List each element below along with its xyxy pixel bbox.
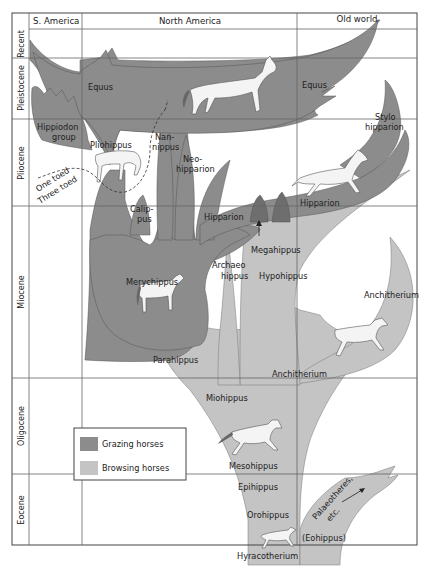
label-stylohipparion-line1: Stylo — [375, 112, 396, 122]
label-megahippus: Megahippus — [251, 245, 301, 255]
label-hippidion-line1: Hippiodon — [37, 122, 79, 132]
epoch-eocene: Eocene — [17, 495, 26, 524]
label-calippus-line2: pus — [137, 214, 152, 224]
column-header-south-america: S. America — [33, 16, 79, 26]
legend-label-grazing: Grazing horses — [102, 439, 163, 449]
column-header-north-america: North America — [159, 16, 221, 26]
epoch-oligocene: Oligocene — [17, 406, 26, 446]
label-archaeohippus-line1: Archaeo — [212, 260, 246, 270]
label-archaeohippus-line2: hippus — [221, 271, 248, 281]
horse-evolution-diagram: S. America North America Old world Recen… — [0, 0, 427, 573]
label-mesohippus: Mesohippus — [229, 461, 278, 471]
label-anchitherium-north-america: Anchitherium — [272, 369, 327, 379]
label-merychippus: Merychippus — [126, 277, 178, 287]
label-parahippus: Parahippus — [153, 355, 198, 365]
label-neohipparion-line2: hipparion — [176, 164, 215, 174]
epoch-pliocene: Pliocene — [17, 146, 26, 180]
label-hipparion-old-world: Hipparion — [300, 198, 340, 208]
megahippus-dark-spike-2 — [272, 192, 290, 222]
epoch-recent: Recent — [17, 30, 26, 58]
label-eohippus: (Eohippus) — [302, 533, 346, 543]
legend: Grazing horses Browsing horses — [74, 428, 186, 480]
label-orohippus: Orohippus — [247, 510, 289, 520]
label-pliohippus: Pliohippus — [90, 140, 132, 150]
label-stylohipparion-line2: hipparion — [365, 122, 404, 132]
legend-swatch-browsing — [80, 461, 98, 475]
label-equus-old-world: Equus — [302, 80, 327, 90]
column-header-old-world: Old world — [336, 14, 377, 24]
label-hipparion-north-america: Hipparion — [204, 212, 244, 222]
label-calippus-line1: Calip- — [130, 204, 153, 214]
label-nannippus-line2: nippus — [152, 142, 179, 152]
label-anchitherium-old-world: Anchitherium — [364, 290, 419, 300]
label-miohippus: Miohippus — [206, 393, 248, 403]
legend-label-browsing: Browsing horses — [102, 463, 169, 473]
label-hippidion-line2: group — [52, 132, 76, 142]
label-nannippus-line1: Nan- — [155, 132, 174, 142]
epoch-miocene: Miocene — [17, 275, 26, 308]
megahippus-dark-spike-1 — [250, 195, 268, 222]
label-equus-north-america: Equus — [88, 82, 113, 92]
epoch-pleistocene: Pleistocene — [17, 65, 26, 111]
label-hyracotherium: Hyracotherium — [237, 551, 298, 561]
label-hypohippus: Hypohippus — [259, 271, 308, 281]
label-epihippus: Epihippus — [238, 482, 278, 492]
legend-swatch-grazing — [80, 437, 98, 451]
label-neohipparion-line1: Neo- — [183, 154, 202, 164]
